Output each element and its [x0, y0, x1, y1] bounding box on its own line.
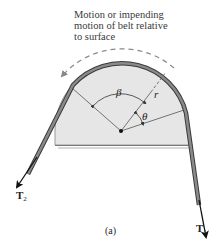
tension-t2-arrow: [17, 157, 37, 187]
theta-label: θ: [142, 110, 147, 122]
motion-annotation-line1: Motion or impending: [74, 9, 164, 20]
radius-label: r: [154, 88, 158, 100]
beta-label: β: [116, 86, 121, 98]
drum: [55, 64, 192, 148]
motion-annotation-line3: to surface: [74, 31, 115, 42]
motion-annotation-line2: motion of belt relative: [74, 20, 168, 31]
figure-caption: (a): [105, 225, 116, 236]
belt-friction-diagram: Motion or impending motion of belt relat…: [0, 0, 221, 246]
tension-t1-label: T1: [196, 222, 207, 236]
tension-t2-label: T2: [16, 189, 27, 203]
